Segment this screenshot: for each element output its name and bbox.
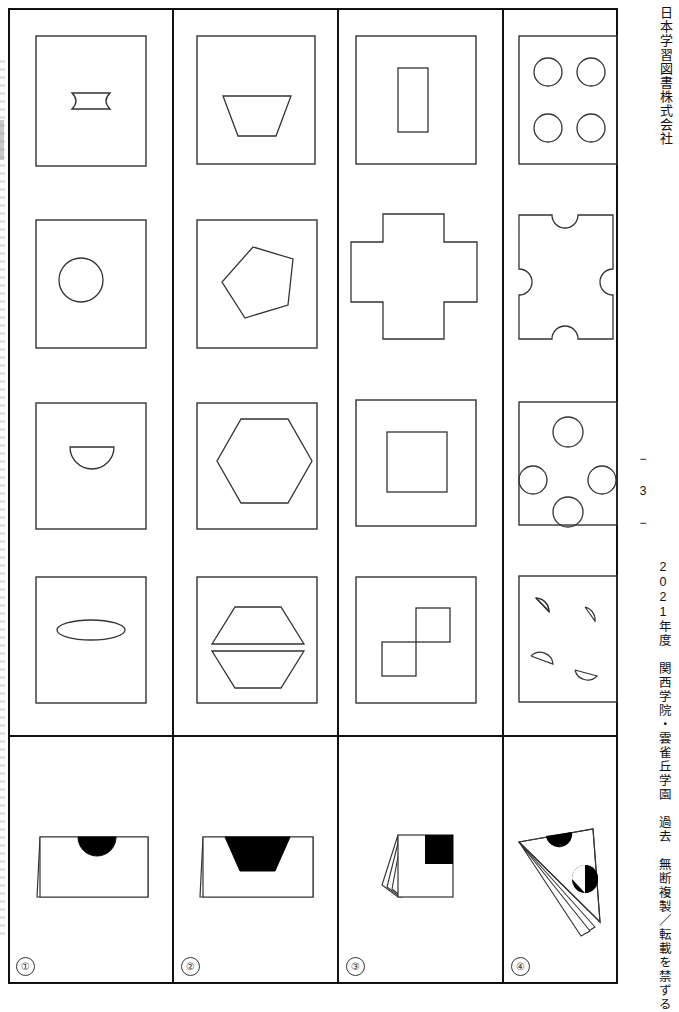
page-number: − 3 − <box>636 452 650 532</box>
cell-r3c2 <box>175 377 337 552</box>
cell-r4c4 <box>505 552 616 735</box>
scan-edge-artifact <box>0 60 5 940</box>
column-divider-3 <box>502 10 504 982</box>
copyright-credit: 2021年度 関西学院・雲雀丘学園 過去 無断複製／転載を禁ずる <box>654 560 673 1012</box>
cell-r2c3 <box>340 192 502 377</box>
answer-index-4: ④ <box>511 957 530 976</box>
publisher-label: 日本学習図書株式会社 <box>656 6 675 146</box>
cell-r3c4 <box>505 377 616 552</box>
answer-cell-3: ③ <box>340 737 502 982</box>
cell-r4c2 <box>175 552 337 735</box>
answer-cell-4: ④ <box>505 737 616 982</box>
cell-r3c3 <box>340 377 502 552</box>
answer-cell-2: ② <box>175 737 337 982</box>
cell-r4c1 <box>10 552 172 735</box>
cell-r2c1 <box>10 192 172 377</box>
column-divider-2 <box>337 10 339 982</box>
cell-r1c4 <box>505 10 616 192</box>
cell-r2c2 <box>175 192 337 377</box>
scan-edge-artifact-dark <box>0 120 4 160</box>
cell-r1c1 <box>10 10 172 192</box>
cell-r4c3 <box>340 552 502 735</box>
cell-r3c1 <box>10 377 172 552</box>
answer-index-1: ① <box>16 957 35 976</box>
answer-index-2: ② <box>181 957 200 976</box>
cell-r1c3 <box>340 10 502 192</box>
cell-r2c4 <box>505 192 616 377</box>
column-divider-1 <box>172 10 174 982</box>
answer-index-3: ③ <box>346 957 365 976</box>
cell-r1c2 <box>175 10 337 192</box>
question-grid: ① ② ③ <box>8 8 618 984</box>
answer-cell-1: ① <box>10 737 172 982</box>
